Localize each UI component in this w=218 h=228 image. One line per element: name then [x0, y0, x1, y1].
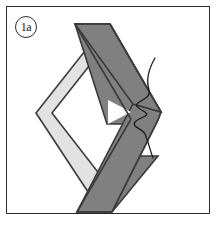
step-number-badge: 1a [15, 16, 37, 38]
figure-root: 1a [0, 0, 218, 228]
